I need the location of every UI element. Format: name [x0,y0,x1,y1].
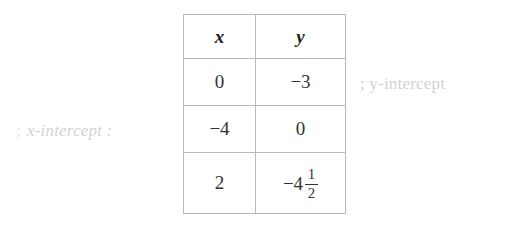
column-header-y: y [256,15,346,59]
fraction-numerator: 1 [307,167,317,182]
xy-value-table: x y 0 −3 −4 0 2 −4 1 [183,14,346,214]
annotation-x-intercept-lead: ; [16,121,21,140]
cell-y-row1: −3 [256,59,346,106]
mixed-number-whole: −4 [283,174,303,193]
fraction-denominator: 2 [307,186,317,201]
table-row: −4 0 [184,106,346,153]
table-row: 2 −4 1 2 [184,153,346,214]
annotation-y-intercept: ; y-intercept [360,74,445,94]
cell-x-row1: 0 [184,59,256,106]
fraction: 1 2 [305,167,318,201]
table-row: 0 −3 [184,59,346,106]
worksheet-page: x y 0 −3 −4 0 2 −4 1 [0,0,521,228]
cell-y-row3: −4 1 2 [256,153,346,214]
cell-x-row3: 2 [184,153,256,214]
cell-y-row2: 0 [256,106,346,153]
mixed-number: −4 1 2 [283,166,318,200]
table-header-row: x y [184,15,346,59]
annotation-x-intercept-label: x-intercept : [27,121,113,140]
column-header-x: x [184,15,256,59]
cell-x-row2: −4 [184,106,256,153]
annotation-x-intercept: ;x-intercept : [16,121,112,141]
